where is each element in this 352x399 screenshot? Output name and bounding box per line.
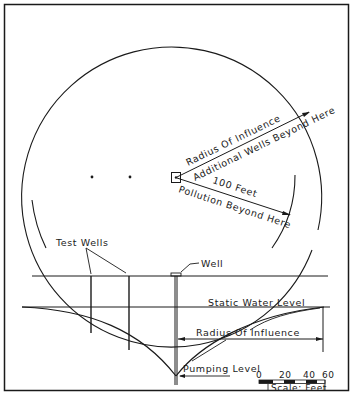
scale-caption: Scale: Feet: [271, 383, 327, 393]
scale-bar: 0 20 40 60 Scale: Feet: [256, 370, 335, 393]
well-leader: [181, 263, 199, 272]
radius-arrow-line: [177, 112, 309, 177]
test-wells-label: Test Wells: [55, 237, 109, 248]
arrowhead-icon: [316, 337, 323, 341]
well-label: Well: [201, 258, 223, 269]
scale-tick-40: 40: [303, 370, 316, 380]
test-wells-leader-1: [86, 248, 91, 274]
scale-tick-0: 0: [256, 370, 262, 380]
pumping-level-label: Pumping Level: [183, 363, 260, 374]
arrowhead-icon: [178, 337, 185, 341]
circle-left-tail: [32, 200, 46, 248]
test-well-dot-2: [129, 176, 132, 179]
test-wells-leader-2: [86, 248, 126, 273]
scale-tick-20: 20: [279, 370, 292, 380]
well-diagram: Radius Of Influence Additional Wells Bey…: [0, 0, 352, 399]
radius-of-influence-section-label: Radius Of Influence: [196, 327, 300, 338]
scale-tick-60: 60: [322, 370, 335, 380]
drawdown-cone-left: [22, 307, 176, 376]
pumping-leader-up: [192, 340, 226, 361]
section-view: Test Wells Well Static Water Level Radiu…: [22, 237, 330, 385]
arrowhead-icon: [179, 374, 185, 378]
static-water-level-label: Static Water Level: [208, 297, 305, 308]
test-well-dot-1: [91, 176, 94, 179]
